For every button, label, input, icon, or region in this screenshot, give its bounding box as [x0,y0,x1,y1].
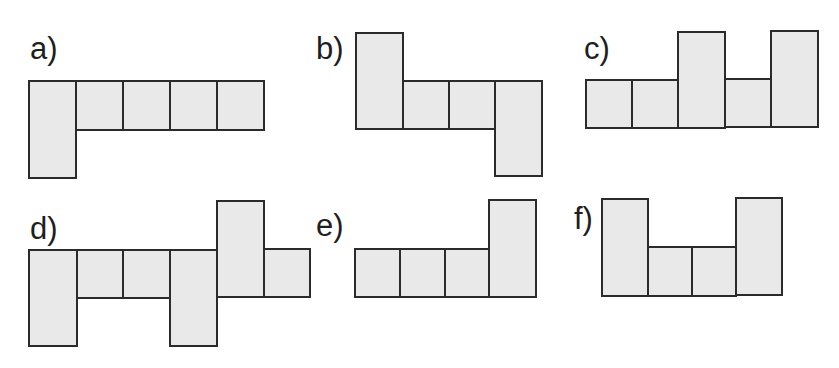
net-square [647,246,693,297]
figure-f: f) [0,0,839,368]
net-square [691,246,737,297]
net-square [601,198,649,297]
net-square [735,197,783,296]
figure-label-f: f) [574,203,593,234]
